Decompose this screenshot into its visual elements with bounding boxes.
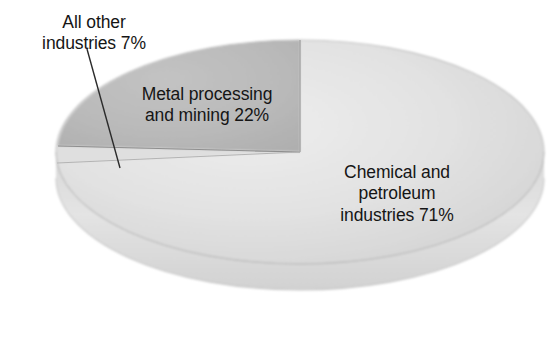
- slice-label-metal-processing-and-mining: Metal processing and mining 22%: [110, 84, 304, 127]
- slice-label-chemical-and-petroleum: Chemical and petroleum industries 71%: [306, 162, 488, 226]
- pie-chart: All other industries 7% Metal processing…: [0, 0, 552, 339]
- slice-label-all-other-industries: All other industries 7%: [6, 12, 182, 55]
